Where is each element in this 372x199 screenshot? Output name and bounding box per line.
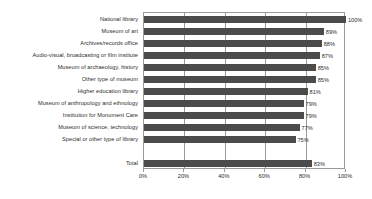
category-label: Higher education library bbox=[78, 85, 138, 97]
bar-value-label: 81% bbox=[308, 86, 321, 98]
category-label: Total bbox=[126, 157, 138, 169]
bar-value-label: 89% bbox=[324, 26, 337, 38]
category-label: Audio-visual, broadcasting or film insti… bbox=[33, 49, 138, 61]
bar bbox=[144, 28, 324, 35]
bar-row: 88% bbox=[144, 38, 344, 50]
category-label: Institution for Monument Care bbox=[63, 109, 138, 121]
bar-value-label: 75% bbox=[296, 134, 309, 146]
category-label: Special or other type of library bbox=[62, 133, 138, 145]
bar-row: 100% bbox=[144, 14, 344, 26]
bar-chart-figure: National libraryMuseum of artArchives/re… bbox=[0, 0, 372, 199]
category-label: Museum of archaeology, history bbox=[58, 61, 138, 73]
bar-row: 85% bbox=[144, 62, 344, 74]
bar-row: 89% bbox=[144, 26, 344, 38]
x-tick-label: 60% bbox=[259, 173, 270, 179]
bar-value-label: 77% bbox=[300, 122, 313, 134]
bar bbox=[144, 112, 304, 119]
bar bbox=[144, 16, 346, 23]
bar-value-label: 100% bbox=[346, 14, 362, 26]
category-axis-labels: National libraryMuseum of artArchives/re… bbox=[0, 12, 141, 169]
bar bbox=[144, 40, 322, 47]
category-label: National library bbox=[100, 13, 138, 25]
bar bbox=[144, 136, 296, 143]
plot-area: 100%89%88%87%85%85%81%79%79%77%75%83% bbox=[143, 12, 345, 169]
bar-value-label: 79% bbox=[304, 110, 317, 122]
x-tick-label: 80% bbox=[299, 173, 310, 179]
bar-row: 79% bbox=[144, 110, 344, 122]
bar-value-label: 88% bbox=[322, 38, 335, 50]
bar-value-label: 85% bbox=[316, 62, 329, 74]
x-axis: 0%20%40%60%80%100% bbox=[143, 169, 345, 185]
bar-row: 79% bbox=[144, 98, 344, 110]
bar-series: 100%89%88%87%85%85%81%79%79%77%75%83% bbox=[144, 13, 344, 168]
x-tick-label: 20% bbox=[178, 173, 189, 179]
category-label: Archives/records office bbox=[80, 37, 138, 49]
x-tick-mark bbox=[305, 169, 306, 172]
bar bbox=[144, 64, 316, 71]
bar bbox=[144, 52, 320, 59]
category-label: Museum of anthropology and ethnology bbox=[38, 97, 138, 109]
x-tick-label: 40% bbox=[218, 173, 229, 179]
bar bbox=[144, 76, 316, 83]
category-label: Other type of museum bbox=[82, 73, 138, 85]
bar-row: 81% bbox=[144, 86, 344, 98]
bar-row: 77% bbox=[144, 122, 344, 134]
bar-row: 85% bbox=[144, 74, 344, 86]
x-tick-mark bbox=[345, 169, 346, 172]
category-label: Museum of science, technology bbox=[58, 121, 138, 133]
x-tick-mark bbox=[224, 169, 225, 172]
x-tick-mark bbox=[143, 169, 144, 172]
bar bbox=[144, 124, 300, 131]
x-tick-label: 100% bbox=[338, 173, 352, 179]
x-tick-label: 0% bbox=[139, 173, 147, 179]
x-tick-mark bbox=[183, 169, 184, 172]
bar-row: 87% bbox=[144, 50, 344, 62]
category-label: Museum of art bbox=[102, 25, 138, 37]
x-tick-mark bbox=[264, 169, 265, 172]
bar-value-label: 87% bbox=[320, 50, 333, 62]
bar-value-label: 85% bbox=[316, 74, 329, 86]
bar-value-label: 79% bbox=[304, 98, 317, 110]
bar-row: 75% bbox=[144, 134, 344, 146]
bar bbox=[144, 88, 308, 95]
bar bbox=[144, 160, 312, 167]
bar bbox=[144, 100, 304, 107]
